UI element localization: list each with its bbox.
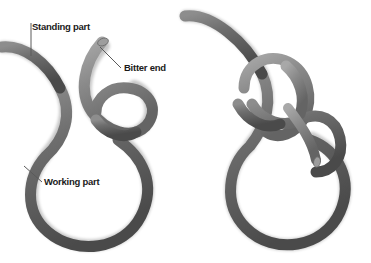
label-standing-part: Standing part bbox=[32, 22, 90, 32]
knot-illustration: Standing part Bitter end Working part bbox=[0, 0, 371, 263]
label-working-part: Working part bbox=[44, 177, 99, 187]
label-bitter-end: Bitter end bbox=[124, 63, 166, 73]
knot-diagram-svg bbox=[0, 0, 371, 263]
right-panel bbox=[185, 16, 345, 245]
leader-line-bitter-end bbox=[100, 47, 121, 68]
right-working-loop bbox=[231, 74, 346, 245]
